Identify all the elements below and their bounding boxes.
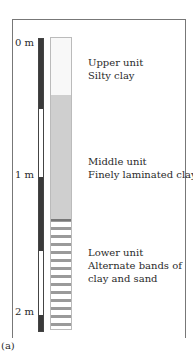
lower-unit-layer bbox=[51, 219, 71, 330]
upper-unit-description: Silty clay bbox=[88, 69, 143, 82]
upper-unit-label: Upper unit Silty clay bbox=[88, 56, 143, 82]
depth-label-0m: 0 m bbox=[4, 37, 34, 48]
scale-segment-dark bbox=[39, 315, 43, 331]
figure-caption: (a) bbox=[1, 340, 15, 351]
middle-unit-name: Middle unit bbox=[88, 155, 193, 168]
frame-top-border bbox=[12, 19, 186, 20]
scale-segment-dark bbox=[39, 39, 43, 109]
depth-label-1m: 1 m bbox=[4, 169, 34, 180]
lower-unit-label: Lower unit Alternate bands of clay and s… bbox=[88, 246, 182, 285]
depth-scale-bar bbox=[38, 38, 44, 332]
middle-unit-description: Finely laminated clay bbox=[88, 168, 193, 181]
upper-unit-name: Upper unit bbox=[88, 56, 143, 69]
lower-unit-boundary bbox=[51, 219, 71, 221]
scale-segment-dark bbox=[39, 177, 43, 251]
middle-unit-layer bbox=[51, 95, 71, 219]
lower-unit-description: Alternate bands of bbox=[88, 259, 182, 272]
lower-unit-description-cont: clay and sand bbox=[88, 272, 182, 285]
lower-unit-name: Lower unit bbox=[88, 246, 182, 259]
upper-unit-layer bbox=[51, 38, 71, 95]
depth-label-2m: 2 m bbox=[4, 306, 34, 317]
middle-unit-label: Middle unit Finely laminated clay bbox=[88, 155, 193, 181]
stratigraphic-column bbox=[50, 37, 72, 330]
